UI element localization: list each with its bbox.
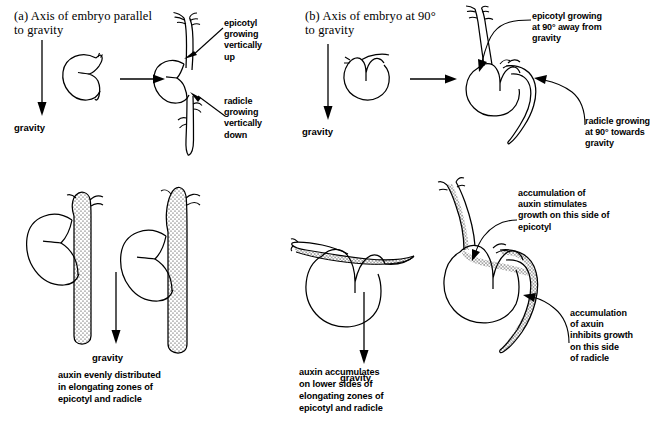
label-epicotyl-d: accumulation of auxin stimulates growth … [518, 188, 609, 233]
leader-radicle-b [524, 70, 586, 126]
gravity-arrow-c [104, 272, 128, 348]
leader-epicotyl-b [470, 16, 532, 74]
gravity-arrow-a [30, 40, 54, 120]
caption-d: auxin accumulates on lower sides of elon… [299, 366, 383, 414]
panel-a-heading-line1: (a) Axis of embryo parallel [14, 9, 152, 23]
leader-epicotyl-a [182, 26, 224, 60]
panel-b-heading-line2: to gravity [305, 23, 436, 37]
process-arrow-b [410, 72, 458, 86]
panel-b-heading: (b) Axis of embryo at 90° to gravity [305, 9, 436, 37]
caption-c: auxin evenly distributed in elongating z… [58, 369, 161, 405]
panel-b-heading-line1: (b) Axis of embryo at 90° [305, 9, 436, 23]
gravity-arrow-d [352, 292, 376, 368]
label-epicotyl-b: epicotyl growing at 90° away from gravit… [532, 11, 602, 45]
panel-b: (b) Axis of embryo at 90° to gravity gra… [300, 0, 640, 180]
leader-radicle-d [512, 292, 570, 344]
gravity-label-c: gravity [92, 352, 123, 363]
gravity-label-a: gravity [14, 122, 45, 133]
seedling-stippled-right-c [118, 178, 214, 354]
panel-a-heading: (a) Axis of embryo parallel to gravity [14, 9, 152, 37]
panel-d: gravity auxin accumulates on lower sides… [300, 180, 640, 423]
gravity-arrow-b [316, 44, 340, 124]
leader-radicle-a [188, 92, 226, 118]
label-radicle-b: radicle growing at 90° towards gravity [585, 116, 650, 150]
seed-ungerminated-a [58, 46, 118, 108]
label-epicotyl-a: epicotyl growing vertically up [224, 18, 262, 63]
panel-a-heading-line2: to gravity [14, 23, 152, 37]
seed-sideways-b [340, 48, 402, 102]
label-radicle-d: accumulation of axuin inhibits growth on… [570, 308, 633, 364]
gravity-label-b: gravity [302, 126, 333, 137]
leader-epicotyl-d [460, 218, 518, 262]
panel-c: gravity auxin evenly distributed in elon… [0, 180, 300, 423]
label-radicle-a: radicle growing vertically down [224, 96, 262, 141]
panel-a: (a) Axis of embryo parallel to gravity g… [0, 0, 300, 180]
